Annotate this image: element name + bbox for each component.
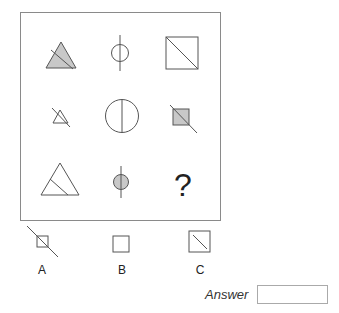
option-a-label[interactable]: A [32, 263, 52, 277]
option-a-figure[interactable] [26, 225, 60, 263]
option-c-figure[interactable] [188, 230, 212, 258]
answer-input[interactable] [257, 285, 328, 304]
small-triangle-icon [50, 104, 74, 128]
filled-triangle-icon [44, 40, 78, 70]
large-triangle-icon [40, 161, 82, 197]
large-circle-icon [104, 98, 140, 134]
answer-label: Answer [205, 287, 248, 302]
option-b-label[interactable]: B [112, 263, 132, 277]
option-c-label[interactable]: C [190, 263, 210, 277]
filled-circle-icon [111, 164, 131, 200]
missing-cell-question-mark: ? [166, 167, 200, 203]
square-diagonal-icon [165, 36, 199, 70]
filled-square-icon [168, 101, 200, 135]
option-b-figure[interactable] [112, 235, 130, 257]
circle-vertical-line-icon [110, 33, 130, 73]
